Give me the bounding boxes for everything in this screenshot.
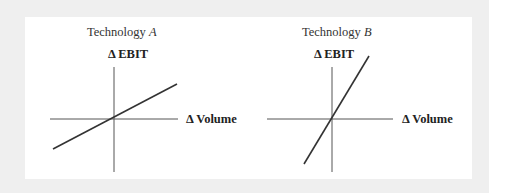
panel-a-x-axis-label: Δ Volume — [186, 112, 237, 126]
panel-a-title-letter: A — [148, 25, 157, 39]
panel-a-title: Technology A — [87, 25, 157, 39]
panel-a-title-prefix: Technology — [87, 25, 149, 39]
panel-b-title-prefix: Technology — [302, 25, 364, 39]
panel-b-title: Technology B — [302, 25, 372, 39]
ebit-volume-diagram: Technology A Δ EBIT Δ Volume Technology … — [0, 0, 510, 193]
panel-a-ebit-line — [53, 84, 177, 149]
panel-b-title-letter: B — [364, 25, 372, 39]
panel-b-y-axis-label: Δ EBIT — [314, 47, 355, 61]
panel-technology-a: Technology A Δ EBIT Δ Volume — [50, 25, 237, 172]
panel-b-ebit-line — [304, 56, 369, 164]
panel-a-y-axis-label: Δ EBIT — [108, 47, 149, 61]
panel-technology-b: Technology B Δ EBIT Δ Volume — [267, 25, 453, 172]
panel-b-x-axis-label: Δ Volume — [402, 112, 453, 126]
